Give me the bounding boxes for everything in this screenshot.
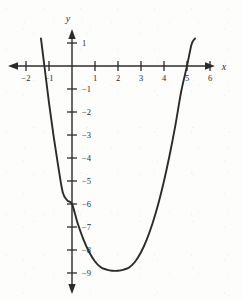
y-tick-label--9: −9 <box>82 268 91 278</box>
y-axis-arrow-down-icon <box>68 284 75 294</box>
y-tick-label--1: −1 <box>82 84 91 94</box>
x-tick-label-4: 4 <box>162 73 167 83</box>
x-tick-label-2: 2 <box>116 73 120 83</box>
y-tick-label--5: −5 <box>82 176 91 186</box>
y-tick-label--7: −7 <box>82 222 91 232</box>
x-tick-label-6: 6 <box>208 73 212 83</box>
parabola-plot: −2 −1 1 2 3 4 5 6 1 −1 −2 −3 −4 −5 −6 −7… <box>0 0 243 300</box>
y-axis-group <box>68 29 75 294</box>
y-tick-label--4: −4 <box>82 153 92 163</box>
x-axis-group <box>8 62 215 69</box>
y-tick-label--6: −6 <box>82 199 91 209</box>
y-axis-label: y <box>65 13 71 24</box>
y-tick-label-1: 1 <box>82 38 86 48</box>
x-axis-arrow-left-icon <box>8 62 18 69</box>
x-axis-label: x <box>221 61 227 72</box>
graph-figure: −2 −1 1 2 3 4 5 6 1 −1 −2 −3 −4 −5 −6 −7… <box>0 0 243 300</box>
x-tick-label--2: −2 <box>21 73 30 83</box>
y-tick-label--2: −2 <box>82 107 91 117</box>
y-axis-arrow-up-icon <box>68 29 75 39</box>
x-tick-label-1: 1 <box>93 73 97 83</box>
x-tick-label-3: 3 <box>139 73 143 83</box>
y-tick-label--3: −3 <box>82 130 91 140</box>
